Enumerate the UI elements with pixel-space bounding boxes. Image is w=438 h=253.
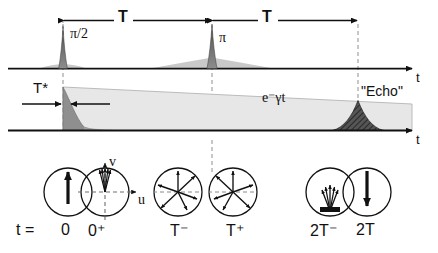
bloch-label-2Tminus: 2T⁻ xyxy=(310,221,337,240)
pulse-baseline-shading xyxy=(8,58,300,69)
time-axis-prefix: t = xyxy=(16,221,34,239)
bloch-axis-u-label: u xyxy=(138,192,145,208)
signal-axis-t-label: t xyxy=(416,132,420,147)
pulse-pi xyxy=(207,25,217,69)
fid-width-label: T* xyxy=(33,79,48,96)
interval-1-label: T xyxy=(118,8,128,26)
pulse-pi-over-2-label: π/2 xyxy=(70,26,88,42)
pulse-axis xyxy=(8,25,412,69)
bloch-axis-v-label: v xyxy=(109,154,116,170)
pulse-pi-label: π xyxy=(219,30,226,46)
interval-2-label: T xyxy=(262,8,272,26)
bloch-label-0: 0 xyxy=(61,221,70,239)
bloch-row xyxy=(44,163,391,220)
echo-label: "Echo" xyxy=(361,83,403,99)
bloch-label-Tplus: T⁺ xyxy=(226,221,244,240)
pulse-pi-over-2 xyxy=(59,27,68,69)
bloch-spread-Tminus xyxy=(158,171,197,210)
bloch-label-2T: 2T xyxy=(356,221,375,239)
bloch-label-Tminus: T⁻ xyxy=(170,221,188,240)
interval-markers xyxy=(63,20,357,34)
bloch-fan-2Tminus xyxy=(320,185,340,212)
bloch-fan-0plus xyxy=(100,169,111,193)
signal-axis xyxy=(8,87,412,131)
pulse-axis-t-label: t xyxy=(416,70,420,85)
bloch-spread-Tplus xyxy=(214,171,253,210)
decay-label: e⁻γt xyxy=(262,89,285,106)
bloch-label-0plus: 0⁺ xyxy=(88,221,105,240)
